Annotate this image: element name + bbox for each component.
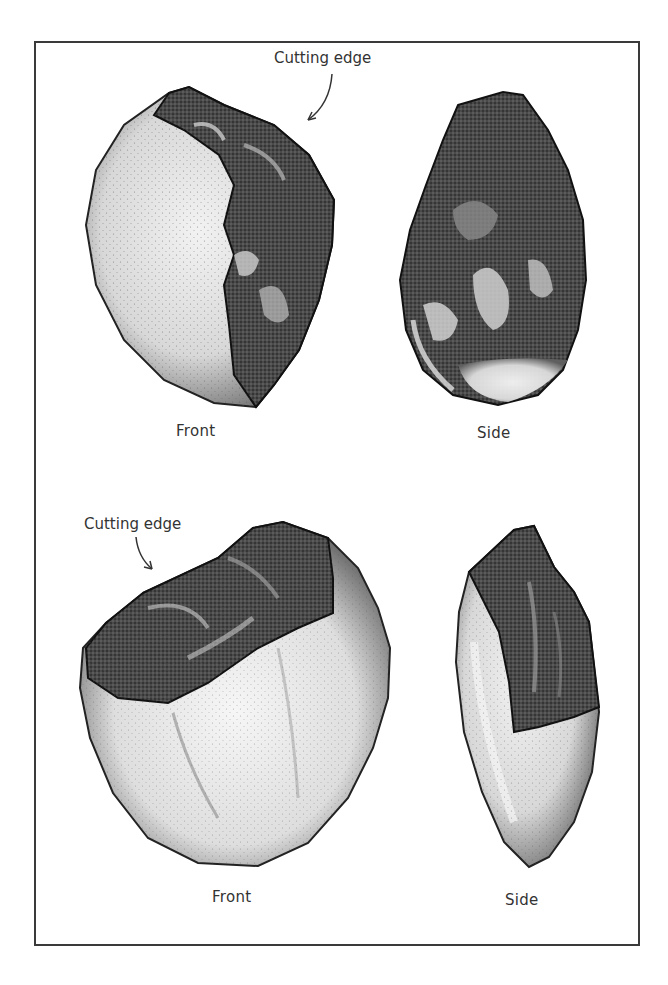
callout-cutting-edge-top: Cutting edge: [274, 49, 371, 67]
curved-arrow-icon: [300, 70, 340, 130]
label-bottom-front: Front: [212, 888, 251, 906]
label-bottom-side: Side: [505, 891, 539, 909]
label-top-side: Side: [477, 424, 511, 442]
stone-top-side-illustration: [398, 90, 588, 410]
callout-cutting-edge-bottom: Cutting edge: [84, 515, 181, 533]
stone-bottom-front-illustration: [78, 518, 398, 873]
stone-top-front-illustration: [84, 85, 344, 415]
stone-bottom-side-illustration: [454, 522, 604, 872]
label-top-front: Front: [176, 422, 215, 440]
curved-arrow-icon: [134, 535, 164, 575]
